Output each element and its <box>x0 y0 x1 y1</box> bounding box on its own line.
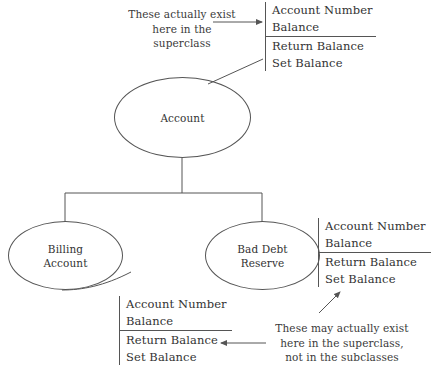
leader-account-to-top-block <box>208 59 263 84</box>
class-block-right-divider <box>319 252 431 253</box>
class-block-right: Account Number Balance Return Balance Se… <box>318 218 434 287</box>
annotation-line: here in the <box>126 22 238 37</box>
class-node-billing-account[interactable]: Billing Account <box>8 221 123 290</box>
class-block-bottom: Account Number Balance Return Balance Se… <box>119 296 234 365</box>
attribute-row: Account Number <box>126 296 234 313</box>
annotation-subclass-note: These may actually exist here in the sup… <box>262 321 422 365</box>
attribute-row: Account Number <box>272 2 381 19</box>
annotation-line: here in the superclass, <box>262 336 422 351</box>
annotation-line: These actually exist <box>126 7 238 22</box>
attribute-row: Balance <box>325 235 434 252</box>
class-block-bottom-attributes: Account Number Balance <box>126 296 234 329</box>
class-block-top-attributes: Account Number Balance <box>272 2 381 35</box>
operation-row: Return Balance <box>325 254 434 271</box>
class-block-bottom-divider <box>120 330 232 331</box>
attribute-row: Balance <box>126 313 234 330</box>
class-node-bad-debt-reserve-label: Bad Debt Reserve <box>237 242 287 270</box>
attribute-row: Balance <box>272 19 381 36</box>
class-node-account[interactable]: Account <box>114 77 251 158</box>
class-node-bad-debt-reserve[interactable]: Bad Debt Reserve <box>205 221 320 290</box>
class-block-top-divider <box>266 36 376 37</box>
annotation-line: not in the subclasses <box>262 350 422 365</box>
class-block-right-operations: Return Balance Set Balance <box>325 254 434 287</box>
operation-row: Return Balance <box>126 332 234 349</box>
generalization-tree <box>65 158 262 222</box>
class-block-bottom-operations: Return Balance Set Balance <box>126 332 234 365</box>
operation-row: Set Balance <box>325 271 434 288</box>
class-node-account-label: Account <box>160 111 204 125</box>
class-block-top: Account Number Balance Return Balance Se… <box>265 2 381 71</box>
attribute-row: Account Number <box>325 218 434 235</box>
diagram-canvas: Account Billing Account Bad Debt Reserve… <box>0 0 439 376</box>
class-block-right-attributes: Account Number Balance <box>325 218 434 251</box>
annotation-arrow-bottom-right <box>319 292 340 313</box>
operation-row: Set Balance <box>272 55 381 72</box>
class-node-billing-account-label: Billing Account <box>43 242 87 270</box>
annotation-line: superclass <box>126 36 238 51</box>
operation-row: Return Balance <box>272 38 381 55</box>
annotation-line: These may actually exist <box>262 321 422 336</box>
class-block-top-operations: Return Balance Set Balance <box>272 38 381 71</box>
operation-row: Set Balance <box>126 349 234 366</box>
annotation-superclass-note: These actually exist here in the supercl… <box>126 7 238 51</box>
